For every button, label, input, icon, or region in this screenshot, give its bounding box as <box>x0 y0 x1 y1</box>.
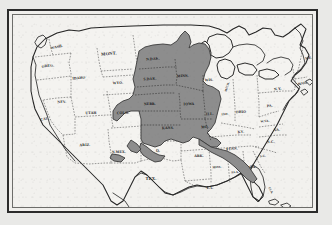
state-label-colorado: COLO. <box>117 111 130 115</box>
state-label-massachusetts: MASS. <box>297 80 308 86</box>
state-label-wyoming: WYO. <box>112 81 123 86</box>
state-label-oklahoma: O. <box>156 149 160 153</box>
state-label-missouri: MO. <box>201 125 209 129</box>
state-label-illinois: ILL. <box>206 112 214 117</box>
state-label-georgia: GA. <box>249 165 256 169</box>
page-background: the Seventy-sixthdumgart of Nebraskaed a… <box>0 0 332 225</box>
map-frame-outer: WASH.OREG.IDAHOMONT.WYO.NEV.UTAHCOLO.CAL… <box>7 9 318 213</box>
state-label-kansas: KANS. <box>162 126 174 130</box>
state-label-west-virginia: W.VA. <box>260 119 270 124</box>
map-frame-inner: WASH.OREG.IDAHOMONT.WYO.NEV.UTAHCOLO.CAL… <box>12 14 313 208</box>
state-label-florida: FLA. <box>267 186 274 195</box>
state-label-indiana: IND. <box>221 112 228 116</box>
state-label-wisconsin: WIS. <box>204 78 213 82</box>
state-label-utah: UTAH <box>85 111 96 115</box>
state-label-iowa: IOWA <box>183 102 194 106</box>
state-label-maine: ME. <box>305 55 313 60</box>
state-label-mississippi: MISS. <box>212 165 221 169</box>
state-label-texas: TEX. <box>146 176 157 181</box>
state-label-virginia: VA. <box>274 128 281 133</box>
state-label-kentucky: KY. <box>237 130 244 135</box>
state-label-alabama: ALA. <box>231 170 239 174</box>
state-label-south-carolina: S.C. <box>260 154 266 158</box>
state-label-south-dakota: S.DAK. <box>143 77 156 82</box>
state-label-north-carolina: N.C. <box>267 140 275 145</box>
state-label-pennsylvania: PA. <box>267 104 273 109</box>
state-label-new-mexico: N.MEX. <box>112 150 126 154</box>
state-label-arizona: ARIZ. <box>79 143 90 147</box>
state-label-arkansas: ARK. <box>194 154 204 158</box>
united-states-map: WASH.OREG.IDAHOMONT.WYO.NEV.UTAHCOLO.CAL… <box>13 15 313 208</box>
state-label-nebraska: NEBR. <box>144 102 156 106</box>
state-label-nevada: NEV. <box>57 100 66 105</box>
state-label-minnesota: MINN. <box>177 74 189 79</box>
state-label-ohio: OHIO <box>236 110 247 115</box>
state-label-louisiana: LA. <box>207 186 214 190</box>
